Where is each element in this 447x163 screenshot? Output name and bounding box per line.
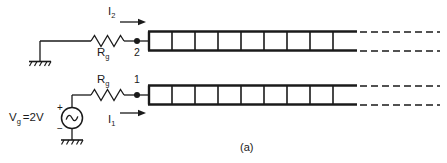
label-current-i2: I2 [108,6,115,18]
ladder-network-bottom [148,86,357,105]
label-resistor-rg-bottom: Rg [97,74,109,86]
node-dot-2 [134,38,140,44]
figure-caption: (a) [240,142,253,153]
label-source-voltage-value: =2V [23,111,44,123]
dashed-continuation-top [360,32,440,51]
label-node-2: 2 [134,47,140,58]
label-source-voltage-subscript: g [17,117,21,126]
ladder-network-top [148,32,357,51]
label-current-i1: I1 [108,114,115,126]
label-source-voltage: Vg=2V [9,112,44,124]
label-resistor-rg-bottom-subscript: g [105,79,109,88]
current-arrow-i1 [120,110,146,116]
label-resistor-rg-top: Rg [97,47,109,59]
label-current-i1-subscript: 1 [111,119,115,128]
resistor-rg-top [91,36,124,47]
label-node-1: 1 [134,74,140,85]
current-arrow-i2 [120,19,146,25]
label-resistor-rg-top-subscript: g [105,52,109,61]
dashed-continuation-bottom [360,86,440,105]
circuit-figure: I2 Rg 2 Rg 1 I1 Vg=2V + − (a) [0,0,447,163]
label-polarity-plus: + [57,103,63,113]
ac-voltage-source [62,108,83,129]
ground-symbol-bottom [61,140,83,145]
node-dot-1 [134,92,140,98]
wire-top-left [40,41,91,62]
label-polarity-minus: − [57,124,63,134]
ground-symbol-top [29,62,51,67]
resistor-rg-bottom [91,90,124,101]
label-source-voltage-base: V [9,111,17,123]
label-current-i2-subscript: 2 [111,11,115,20]
circuit-schematic-svg [0,0,447,163]
